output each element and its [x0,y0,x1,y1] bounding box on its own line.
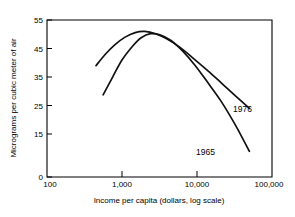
y-tick-label-35: 35 [34,73,43,82]
y-tick-label-55: 55 [34,16,43,25]
x-axis-ticks [122,171,197,177]
chart-page: 55 45 35 25 15 0 100 1,000 10,000 100,00… [0,0,295,217]
x-tick-label-10000: 10,000 [185,180,210,189]
series-line-1965 [103,34,249,152]
series-annotation-1965: 1965 [196,147,215,157]
y-axis-ticks [47,20,52,177]
y-tick-label-45: 45 [34,45,43,54]
x-tick-label-100: 100 [43,180,57,189]
series-annotation-1976: 1976 [233,104,252,114]
y-tick-label-25: 25 [34,102,43,111]
y-axis-title: Micrograms per cubic meter of air [9,38,18,157]
x-tick-label-100000: 100,000 [255,180,284,189]
y-tick-label-15: 15 [34,130,43,139]
pollution-income-chart: 55 45 35 25 15 0 100 1,000 10,000 100,00… [0,0,295,217]
x-tick-label-1000: 1,000 [112,180,133,189]
x-axis-title: Income per capita (dollars, log scale) [94,196,225,205]
series-line-1976 [96,31,249,108]
